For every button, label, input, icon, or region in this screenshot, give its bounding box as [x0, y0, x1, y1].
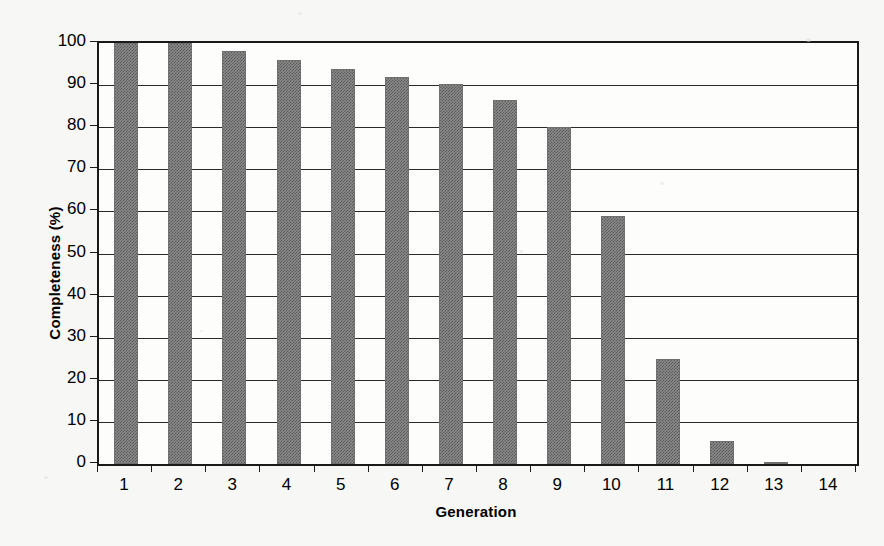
plot-area	[97, 41, 859, 466]
bar	[114, 43, 138, 464]
bar-chart-figure: Completeness (%) 0102030405060708090100 …	[0, 0, 884, 546]
x-axis-tick-mark	[259, 464, 260, 472]
x-axis-tick-label: 9	[552, 475, 561, 495]
x-axis-tick-mark	[638, 464, 639, 472]
x-axis-tick-mark	[584, 464, 585, 472]
x-axis-tick-label: 2	[173, 475, 182, 495]
x-axis-tick-mark	[476, 464, 477, 472]
x-axis-tick-mark	[314, 464, 315, 472]
x-axis-tick-label: 8	[498, 475, 507, 495]
x-axis-tick-label: 14	[818, 475, 837, 495]
x-axis-tick-label: 11	[657, 475, 675, 495]
bar	[385, 77, 409, 464]
x-axis-tick-mark	[368, 464, 369, 472]
x-axis-tick-mark	[530, 464, 531, 472]
y-axis-tick-mark	[90, 167, 98, 168]
y-axis-tick-label: 30	[40, 326, 86, 346]
y-axis-tick-label: 70	[40, 157, 86, 177]
y-axis-tick-mark	[90, 125, 98, 126]
x-axis-tick-label: 3	[228, 475, 237, 495]
x-axis-tick-label: 12	[710, 475, 729, 495]
bar	[601, 216, 625, 464]
y-axis-tick-mark	[90, 462, 98, 463]
y-axis-tick-mark	[90, 294, 98, 295]
x-axis-tick-mark	[855, 464, 856, 472]
x-axis-tick-mark	[422, 464, 423, 472]
scan-artifact	[298, 12, 302, 15]
bar	[710, 441, 734, 464]
bar	[277, 60, 301, 464]
bar	[439, 84, 463, 464]
bars-series	[99, 43, 857, 464]
bar	[493, 100, 517, 464]
x-axis-tick-label: 4	[282, 475, 291, 495]
x-axis-tick-mark	[801, 464, 802, 472]
x-axis-tick-label: 13	[764, 475, 783, 495]
y-axis-tick-label: 100	[40, 31, 86, 51]
x-axis-tick-label: 6	[390, 475, 399, 495]
scan-artifact	[44, 476, 48, 479]
y-axis-tick-mark	[90, 378, 98, 379]
x-axis-tick-label: 7	[444, 475, 453, 495]
y-axis-tick-label: 60	[40, 199, 86, 219]
y-axis-tick-label: 50	[40, 242, 86, 262]
x-axis-tick-mark	[205, 464, 206, 472]
y-axis-tick-mark	[90, 252, 98, 253]
y-axis-tick-mark	[90, 209, 98, 210]
bar	[222, 51, 246, 464]
y-axis-tick-label: 10	[40, 410, 86, 430]
bar	[168, 43, 192, 464]
y-axis-tick-label: 90	[40, 73, 86, 93]
x-axis-ticks-and-labels: 1234567891011121314	[97, 464, 857, 504]
x-axis-tick-mark	[747, 464, 748, 472]
x-axis-tick-mark	[97, 464, 98, 472]
y-axis-tick-label: 20	[40, 368, 86, 388]
bar	[656, 359, 680, 464]
bar	[547, 127, 571, 464]
y-axis-tick-mark	[90, 336, 98, 337]
y-axis-tick-label: 0	[40, 452, 86, 472]
x-axis-tick-label: 5	[336, 475, 345, 495]
y-axis-tick-label: 40	[40, 284, 86, 304]
y-axis-tick-mark	[90, 420, 98, 421]
x-axis-tick-label: 1	[119, 475, 128, 495]
y-axis-tick-labels: 0102030405060708090100	[40, 41, 86, 462]
y-axis-tick-mark	[90, 83, 98, 84]
x-axis-title: Generation	[97, 503, 855, 520]
y-axis-tick-label: 80	[40, 115, 86, 135]
x-axis-tick-label: 10	[602, 475, 621, 495]
x-axis-tick-mark	[151, 464, 152, 472]
y-axis-tick-mark	[90, 41, 98, 42]
x-axis-tick-mark	[693, 464, 694, 472]
bar	[331, 69, 355, 464]
